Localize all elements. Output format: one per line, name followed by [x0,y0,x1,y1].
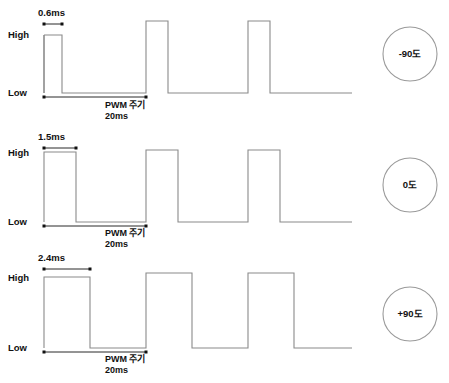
low-label-row3: Low [8,342,28,353]
pwm-timing-diagram: High Low 0.6ms PWM 주기 20ms -90도 [0,0,449,383]
period-label-row3-line2: 20ms [105,365,128,375]
angle-label-minus-90: -90도 [399,48,422,59]
period-label-row2-line2: 20ms [105,239,128,249]
pulse-width-label-row1: 0.6ms [38,7,65,18]
waveform-row-minus-90: High Low 0.6ms PWM 주기 20ms -90도 [8,7,437,121]
pulse-width-dimension-row2 [43,147,78,150]
angle-label-plus-90: +90도 [397,308,422,319]
pulse-width-dimension-row3 [43,268,92,271]
high-label-row1: High [8,29,29,40]
pulse-width-label-row2: 1.5ms [38,131,65,142]
period-label-row1-line2: 20ms [105,111,128,121]
period-label-row1-line1: PWM 주기 [105,99,146,110]
period-dimension-row1 [43,96,148,99]
period-label-row3-line1: PWM 주기 [105,353,146,364]
waveform-trace-1-5ms [44,150,352,222]
angle-label-zero: 0도 [403,179,417,190]
pulse-width-dimension-row1 [43,23,64,26]
low-label-row1: Low [8,87,28,98]
pulse-width-label-row3: 2.4ms [38,252,65,263]
period-label-row2-line1: PWM 주기 [105,227,146,238]
waveform-trace-0-6ms [44,21,352,93]
waveform-row-plus-90: High Low 2.4ms PWM 주기 20ms +90도 [8,252,437,375]
high-label-row3: High [8,272,29,283]
waveform-row-zero: High Low 1.5ms PWM 주기 20ms 0도 [8,131,437,249]
high-label-row2: High [8,147,29,158]
low-label-row2: Low [8,216,28,227]
waveform-trace-2-4ms [44,273,352,348]
